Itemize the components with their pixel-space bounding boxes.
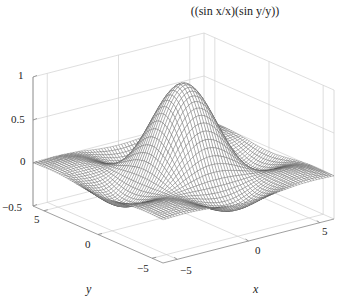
x-axis-label: x — [253, 282, 258, 297]
y-tick-0: 0 — [85, 238, 91, 250]
x-tick-neg5: −5 — [180, 264, 192, 276]
y-tick-5: 5 — [34, 213, 40, 225]
y-tick-neg5: −5 — [137, 262, 149, 274]
chart-title: ((sin x/x)(sin y/y)) — [150, 4, 320, 19]
z-tick-0: 0 — [20, 155, 26, 167]
z-tick-neg0.5: −0.5 — [2, 201, 22, 213]
x-tick-0: 0 — [255, 244, 261, 256]
z-tick-0.5: 0.5 — [11, 113, 25, 125]
z-tick-1: 1 — [18, 69, 24, 81]
x-tick-5: 5 — [322, 225, 328, 237]
surface-plot — [0, 0, 346, 307]
y-axis-label: y — [86, 282, 91, 297]
